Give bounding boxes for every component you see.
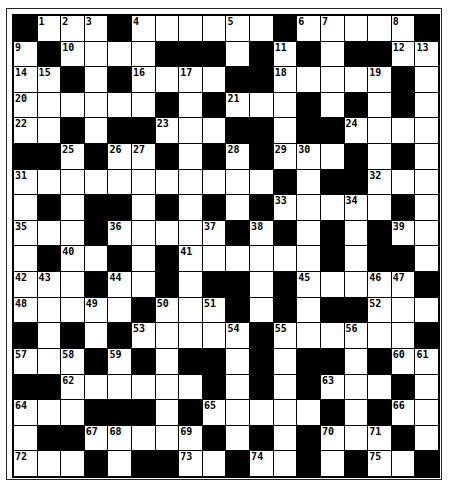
answer-cell[interactable] [85, 93, 108, 118]
answer-cell[interactable]: 33 [274, 195, 297, 220]
answer-cell[interactable] [203, 451, 226, 476]
answer-cell[interactable]: 65 [203, 400, 226, 425]
answer-cell[interactable] [415, 67, 438, 92]
answer-cell[interactable] [368, 375, 391, 400]
answer-cell[interactable] [85, 323, 108, 348]
answer-cell[interactable] [108, 170, 131, 195]
answer-cell[interactable] [203, 323, 226, 348]
answer-cell[interactable] [226, 375, 249, 400]
answer-cell[interactable] [368, 144, 391, 169]
answer-cell[interactable] [250, 246, 273, 271]
answer-cell[interactable] [368, 323, 391, 348]
answer-cell[interactable]: 21 [226, 93, 249, 118]
answer-cell[interactable] [321, 195, 344, 220]
answer-cell[interactable] [85, 118, 108, 143]
answer-cell[interactable] [415, 170, 438, 195]
answer-cell[interactable]: 42 [14, 272, 37, 297]
answer-cell[interactable] [132, 93, 155, 118]
answer-cell[interactable] [108, 451, 131, 476]
answer-cell[interactable] [250, 170, 273, 195]
answer-cell[interactable] [38, 400, 61, 425]
answer-cell[interactable]: 59 [108, 349, 131, 374]
answer-cell[interactable]: 28 [226, 144, 249, 169]
answer-cell[interactable] [368, 118, 391, 143]
answer-cell[interactable] [321, 323, 344, 348]
answer-cell[interactable] [38, 93, 61, 118]
answer-cell[interactable]: 48 [14, 298, 37, 323]
answer-cell[interactable] [132, 272, 155, 297]
answer-cell[interactable] [415, 195, 438, 220]
answer-cell[interactable] [415, 93, 438, 118]
answer-cell[interactable] [38, 221, 61, 246]
answer-cell[interactable] [297, 246, 320, 271]
answer-cell[interactable] [368, 16, 391, 41]
answer-cell[interactable] [179, 298, 202, 323]
answer-cell[interactable] [415, 118, 438, 143]
answer-cell[interactable]: 45 [297, 272, 320, 297]
answer-cell[interactable]: 6 [297, 16, 320, 41]
answer-cell[interactable] [226, 170, 249, 195]
answer-cell[interactable]: 7 [321, 16, 344, 41]
answer-cell[interactable]: 69 [179, 426, 202, 451]
answer-cell[interactable]: 10 [61, 42, 84, 67]
answer-cell[interactable] [415, 298, 438, 323]
answer-cell[interactable] [392, 323, 415, 348]
answer-cell[interactable] [250, 16, 273, 41]
answer-cell[interactable] [156, 426, 179, 451]
answer-cell[interactable]: 38 [250, 221, 273, 246]
answer-cell[interactable] [345, 349, 368, 374]
answer-cell[interactable] [415, 400, 438, 425]
answer-cell[interactable] [85, 67, 108, 92]
answer-cell[interactable] [38, 451, 61, 476]
answer-cell[interactable] [179, 375, 202, 400]
answer-cell[interactable] [14, 195, 37, 220]
answer-cell[interactable] [38, 349, 61, 374]
answer-cell[interactable]: 29 [274, 144, 297, 169]
answer-cell[interactable]: 44 [108, 272, 131, 297]
answer-cell[interactable]: 9 [14, 42, 37, 67]
answer-cell[interactable]: 19 [368, 67, 391, 92]
answer-cell[interactable] [274, 451, 297, 476]
answer-cell[interactable] [345, 375, 368, 400]
answer-cell[interactable]: 66 [392, 400, 415, 425]
answer-cell[interactable] [203, 118, 226, 143]
answer-cell[interactable]: 17 [179, 67, 202, 92]
answer-cell[interactable] [38, 170, 61, 195]
answer-cell[interactable] [108, 93, 131, 118]
answer-cell[interactable]: 15 [38, 67, 61, 92]
answer-cell[interactable] [108, 42, 131, 67]
answer-cell[interactable] [274, 246, 297, 271]
answer-cell[interactable]: 40 [61, 246, 84, 271]
answer-cell[interactable] [61, 93, 84, 118]
answer-cell[interactable]: 50 [156, 298, 179, 323]
answer-cell[interactable]: 32 [368, 170, 391, 195]
answer-cell[interactable] [250, 400, 273, 425]
answer-cell[interactable] [156, 170, 179, 195]
answer-cell[interactable] [297, 298, 320, 323]
answer-cell[interactable] [132, 426, 155, 451]
answer-cell[interactable] [61, 451, 84, 476]
answer-cell[interactable] [226, 426, 249, 451]
answer-cell[interactable]: 62 [61, 375, 84, 400]
answer-cell[interactable]: 16 [132, 67, 155, 92]
answer-cell[interactable] [274, 349, 297, 374]
answer-cell[interactable] [179, 272, 202, 297]
answer-cell[interactable]: 1 [38, 16, 61, 41]
answer-cell[interactable]: 68 [108, 426, 131, 451]
answer-cell[interactable] [368, 93, 391, 118]
answer-cell[interactable]: 26 [108, 144, 131, 169]
answer-cell[interactable]: 51 [203, 298, 226, 323]
answer-cell[interactable]: 46 [368, 272, 391, 297]
answer-cell[interactable] [132, 42, 155, 67]
answer-cell[interactable]: 73 [179, 451, 202, 476]
answer-cell[interactable]: 25 [61, 144, 84, 169]
answer-cell[interactable] [156, 67, 179, 92]
answer-cell[interactable] [132, 375, 155, 400]
answer-cell[interactable] [392, 118, 415, 143]
answer-cell[interactable]: 41 [179, 246, 202, 271]
answer-cell[interactable]: 18 [274, 67, 297, 92]
answer-cell[interactable] [415, 221, 438, 246]
answer-cell[interactable]: 52 [368, 298, 391, 323]
answer-cell[interactable] [203, 170, 226, 195]
answer-cell[interactable] [108, 375, 131, 400]
